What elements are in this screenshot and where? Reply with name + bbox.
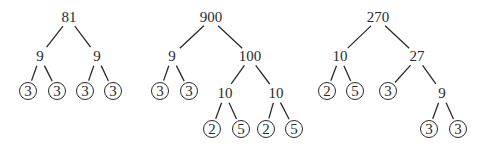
tree-edge [423, 65, 436, 84]
prime-factor-node: 3 [77, 83, 94, 100]
node-label: 2 [323, 83, 331, 99]
node-label: 9 [36, 48, 44, 64]
composite-node: 9 [168, 48, 176, 64]
composite-node: 9 [36, 48, 44, 64]
tree-edge [32, 66, 37, 81]
prime-factor-node: 5 [233, 121, 250, 138]
node-label: 2 [208, 121, 216, 137]
prime-factor-node: 2 [258, 121, 275, 138]
composite-node: 10 [218, 85, 233, 101]
node-label: 3 [109, 83, 117, 99]
node-label: 3 [81, 83, 89, 99]
composite-node: 9 [93, 48, 101, 64]
prime-factor-node: 2 [204, 121, 221, 138]
composite-node: 81 [62, 9, 77, 25]
prime-factor-node: 3 [105, 83, 122, 100]
tree-edge [44, 66, 52, 82]
node-label: 3 [425, 121, 433, 137]
composite-node: 900 [200, 9, 223, 25]
prime-factor-node: 3 [20, 83, 37, 100]
node-label: 3 [24, 83, 32, 99]
tree-edge [75, 26, 91, 47]
prime-factor-node: 3 [181, 83, 198, 100]
node-label: 3 [384, 83, 392, 99]
node-label: 10 [333, 48, 348, 64]
node-label: 9 [93, 48, 101, 64]
node-label: 2 [262, 121, 270, 137]
node-label: 100 [239, 48, 262, 64]
node-label: 3 [185, 83, 193, 99]
prime-factor-node: 3 [421, 121, 438, 138]
factor-tree-270: 2701027253933 [319, 9, 467, 138]
prime-factor-node: 5 [347, 83, 364, 100]
tree-edge [231, 65, 244, 84]
tree-edge [216, 103, 222, 119]
factor-tree-81: 81993333 [20, 9, 122, 100]
node-label: 5 [237, 121, 245, 137]
node-label: 81 [62, 9, 77, 25]
tree-edge [176, 66, 184, 82]
composite-node: 270 [367, 9, 390, 25]
prime-factor-node: 3 [380, 83, 397, 100]
factor-tree-900: 90091003310102525 [152, 9, 303, 138]
node-label: 9 [438, 85, 446, 101]
tree-edge [269, 103, 273, 119]
prime-factor-node: 5 [286, 121, 303, 138]
prime-factor-node: 3 [49, 83, 66, 100]
tree-edge [256, 65, 270, 84]
tree-edge [218, 26, 242, 48]
node-label: 10 [218, 85, 233, 101]
tree-edge [348, 26, 371, 48]
tree-edge [385, 26, 409, 48]
node-label: 3 [53, 83, 61, 99]
composite-node: 27 [410, 48, 426, 64]
tree-edge [395, 65, 411, 82]
tree-edge [180, 26, 204, 48]
node-label: 3 [454, 121, 462, 137]
tree-edge [164, 66, 169, 81]
tree-edge [433, 103, 439, 119]
factor-tree-diagram: 81993333900910033101025252701027253933 [0, 0, 479, 150]
node-label: 270 [367, 9, 390, 25]
composite-node: 9 [438, 85, 446, 101]
tree-edge [446, 103, 453, 119]
prime-factor-node: 3 [152, 83, 169, 100]
node-label: 5 [290, 121, 298, 137]
node-label: 27 [410, 48, 426, 64]
tree-edge [281, 103, 290, 120]
composite-node: 10 [269, 85, 284, 101]
tree-edge [47, 26, 63, 47]
tree-edge [229, 103, 236, 119]
node-label: 5 [351, 83, 359, 99]
tree-edge [89, 66, 94, 81]
tree-edge [344, 66, 351, 81]
composite-node: 10 [333, 48, 348, 64]
tree-edge [331, 66, 337, 81]
node-label: 9 [168, 48, 176, 64]
prime-factor-node: 2 [319, 83, 336, 100]
node-label: 3 [156, 83, 164, 99]
composite-node: 100 [239, 48, 262, 64]
node-label: 10 [269, 85, 284, 101]
prime-factor-node: 3 [450, 121, 467, 138]
node-label: 900 [200, 9, 223, 25]
tree-edge [101, 66, 108, 81]
